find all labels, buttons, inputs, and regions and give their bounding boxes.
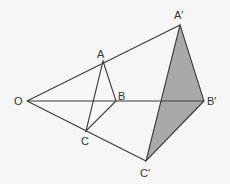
image-triangle-shaded <box>146 25 204 161</box>
label-b-prime: B′ <box>207 95 216 107</box>
enlargement-diagram: O A B C A′ B′ C′ <box>0 0 230 184</box>
label-o: O <box>14 95 23 107</box>
label-b: B <box>118 90 125 102</box>
label-c: C <box>81 135 89 147</box>
label-c-prime: C′ <box>140 167 150 179</box>
label-a-prime: A′ <box>174 9 183 21</box>
object-triangle <box>86 61 116 131</box>
label-a: A <box>97 48 105 60</box>
